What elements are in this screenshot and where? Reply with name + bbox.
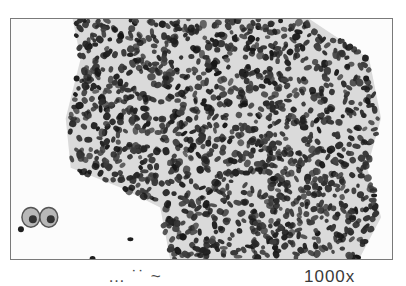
magnification-label: 1000x (304, 267, 355, 286)
cell-cluster-image (11, 19, 392, 259)
figure-caption: … ˙˙ ~ 1000x (0, 267, 406, 286)
micrograph-frame (10, 18, 393, 260)
caption-prefix: … ˙˙ ~ (108, 267, 162, 286)
